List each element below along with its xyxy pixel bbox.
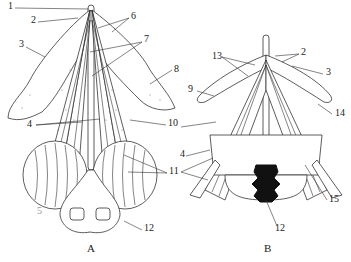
callout-b-15: 15 <box>329 194 339 204</box>
panel-a-drawing <box>8 5 175 233</box>
callout-b-2: 2 <box>301 47 306 57</box>
callout-b-12: 12 <box>275 223 285 233</box>
panel-label-a: A <box>87 243 95 254</box>
callout-b-3: 3 <box>326 67 331 77</box>
callout-a-11: 11 <box>169 166 179 176</box>
callout-a-10: 10 <box>168 118 178 128</box>
callout-a-1: 1 <box>8 1 13 11</box>
callout-a-8: 8 <box>174 64 179 74</box>
anatomical-diagram <box>0 0 351 262</box>
callout-b-14: 14 <box>335 108 345 118</box>
callout-a-4: 4 <box>27 119 32 129</box>
callout-b-4: 4 <box>180 149 185 159</box>
callout-a-7: 7 <box>144 34 149 44</box>
callout-a-6: 6 <box>131 11 136 21</box>
callout-b-13: 13 <box>212 51 222 61</box>
callout-a-3: 3 <box>19 39 24 49</box>
callout-b-9: 9 <box>188 84 193 94</box>
callout-a-5: 5 <box>37 206 42 216</box>
callout-a-12: 12 <box>144 223 154 233</box>
callout-a-2: 2 <box>31 15 36 25</box>
panel-label-b: B <box>264 243 271 254</box>
